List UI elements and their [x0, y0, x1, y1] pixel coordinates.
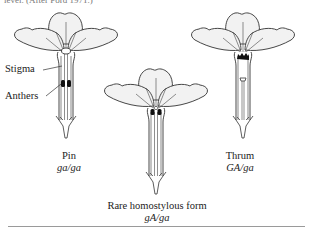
thrum-stigma	[240, 78, 246, 81]
thrum-anthers	[237, 53, 249, 60]
bottom-rule-divider	[8, 226, 305, 227]
anthers-label: Anthers	[5, 90, 38, 101]
homo-anther-left	[151, 109, 155, 115]
pin-anther-left	[61, 80, 65, 87]
homo-stigma	[154, 106, 158, 109]
pin-stigma	[62, 48, 71, 54]
pin-anther-right	[67, 80, 71, 87]
thrum-genotype: GA/ga	[226, 162, 253, 173]
pin-label: Pin	[62, 150, 76, 161]
homostylous-label: Rare homostylous form	[107, 200, 206, 211]
pin-flower	[15, 13, 118, 138]
homo-anther-right	[158, 109, 162, 115]
homostylous-flower	[105, 69, 208, 194]
stigma-label: Stigma	[5, 63, 35, 74]
pin-genotype: ga/ga	[57, 162, 81, 173]
thrum-flower	[192, 13, 295, 138]
thrum-label: Thrum	[226, 150, 255, 161]
homostylous-genotype: gA/ga	[144, 212, 169, 223]
